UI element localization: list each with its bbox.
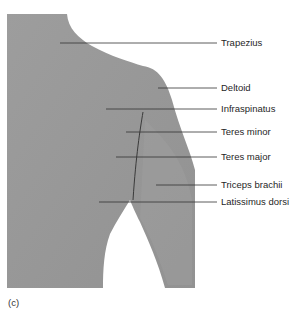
label-trapezius: Trapezius xyxy=(221,37,262,48)
label-deltoid: Deltoid xyxy=(221,82,251,93)
label-latissimus-dorsi: Latissimus dorsi xyxy=(221,196,289,207)
label-teres-minor: Teres minor xyxy=(221,126,271,137)
panel-letter: (c) xyxy=(8,297,19,308)
label-triceps-brachii: Triceps brachii xyxy=(221,179,282,190)
label-infraspinatus: Infraspinatus xyxy=(221,103,275,114)
label-teres-major: Teres major xyxy=(221,151,271,162)
